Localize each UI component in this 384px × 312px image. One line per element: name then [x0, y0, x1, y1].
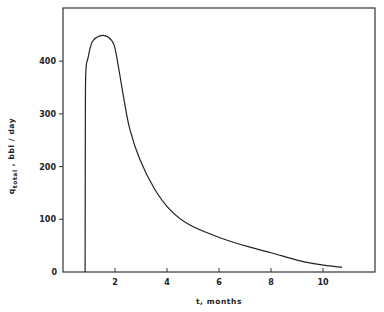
- plot-frame: [63, 8, 375, 272]
- x-tick-label: 8: [268, 278, 274, 287]
- y-tick-label: 400: [39, 57, 56, 66]
- x-tick-label: 4: [164, 278, 170, 287]
- y-tick-label: 200: [39, 163, 56, 172]
- y-axis-label: qtotal , bbl / day: [7, 118, 18, 195]
- x-axis-ticks: 246810: [112, 268, 329, 287]
- x-tick-label: 6: [216, 278, 222, 287]
- y-tick-label: 300: [39, 110, 56, 119]
- x-tick-label: 2: [112, 278, 118, 287]
- x-axis-label: t, months: [196, 297, 242, 306]
- x-tick-label: 10: [317, 278, 329, 287]
- y-axis-ticks: 0100200300400: [39, 57, 63, 277]
- y-axis-label-subscript: total: [11, 169, 18, 188]
- production-rate-curve: [85, 35, 342, 272]
- y-axis-label-units: , bbl / day: [7, 118, 16, 170]
- y-tick-label: 100: [39, 215, 56, 224]
- y-tick-label: 0: [51, 268, 57, 277]
- chart: 0100200300400 246810 t, months qtotal , …: [0, 0, 384, 312]
